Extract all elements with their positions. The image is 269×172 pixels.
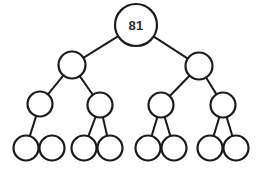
tree-edge: [83, 36, 119, 58]
tree-node: [28, 92, 53, 117]
node-layer: 81: [14, 4, 249, 161]
tree-edge: [153, 36, 188, 59]
tree-node: [211, 93, 236, 118]
tree-node-circle: [72, 136, 97, 161]
tree-node: [98, 136, 123, 161]
tree-node-circle: [198, 136, 223, 161]
tree-canvas: 81: [0, 0, 269, 172]
tree-node-circle: [149, 93, 174, 118]
tree-node: [14, 136, 39, 161]
tree-node-circle: [14, 136, 39, 161]
tree-node: [59, 52, 86, 79]
tree-edge: [48, 75, 64, 95]
tree-edge: [206, 77, 217, 95]
tree-node-circle: [186, 53, 213, 80]
tree-node-circle: [162, 136, 187, 161]
tree-node: [198, 136, 223, 161]
tree-node-circle: [98, 136, 123, 161]
tree-node-circle: [211, 93, 236, 118]
tree-node: [136, 136, 161, 161]
edge-layer: [30, 36, 233, 137]
tree-node-circle: [59, 52, 86, 79]
tree-node: [162, 136, 187, 161]
tree-edge: [164, 116, 170, 136]
tree-edge: [226, 116, 232, 136]
tree-node-circle: [88, 93, 113, 118]
tree-node: [40, 136, 65, 161]
tree-node: [88, 93, 113, 118]
tree-edge: [213, 116, 219, 136]
tree-node: [72, 136, 97, 161]
binary-tree-diagram: 81: [0, 0, 269, 172]
tree-edge: [88, 116, 96, 137]
tree-node-label: 81: [129, 18, 144, 33]
tree-node-circle: [28, 92, 53, 117]
tree-node: [186, 53, 213, 80]
tree-edge: [30, 115, 37, 136]
tree-node: [224, 136, 249, 161]
tree-node-circle: [136, 136, 161, 161]
tree-node-circle: [224, 136, 249, 161]
tree-edge: [169, 75, 190, 96]
tree-node-circle: [40, 136, 65, 161]
tree-edge: [103, 117, 108, 137]
tree-edge: [151, 116, 157, 136]
tree-edge: [79, 76, 93, 96]
tree-node: [149, 93, 174, 118]
tree-node-labeled: 81: [115, 4, 157, 46]
